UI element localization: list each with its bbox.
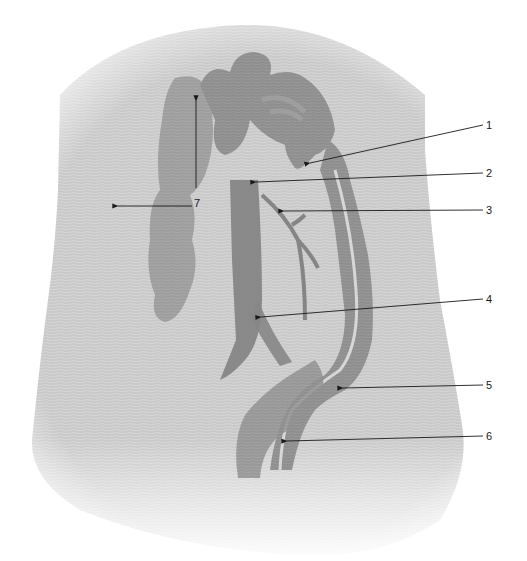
- label-3: 3: [486, 204, 492, 216]
- anatomy-diagram: 1 2 3 4 5 6 7: [0, 0, 527, 561]
- label-2: 2: [486, 167, 492, 179]
- label-7: 7: [194, 197, 200, 209]
- label-6: 6: [486, 430, 492, 442]
- label-4: 4: [486, 293, 492, 305]
- label-5: 5: [486, 379, 492, 391]
- label-1: 1: [486, 119, 492, 131]
